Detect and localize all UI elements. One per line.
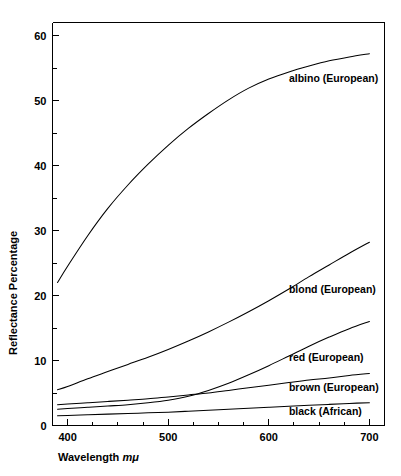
series-label-albino: albino (European) — [289, 72, 378, 84]
x-axis-tick-labels: 400500600700 — [58, 431, 378, 443]
x-axis-title: Wavelength mμ — [58, 451, 139, 463]
chart-canvas: 0102030405060 400500600700 albino (Europ… — [0, 0, 401, 476]
series-label-red: red (European) — [289, 351, 364, 363]
y-tick-label: 20 — [34, 290, 46, 302]
series-label-blond: blond (European) — [289, 283, 376, 295]
y-axis-ticks — [53, 36, 59, 426]
x-tick-label: 600 — [260, 431, 278, 443]
curve-red — [58, 322, 370, 410]
x-tick-label: 700 — [360, 431, 378, 443]
series-label-black: black (African) — [289, 405, 362, 417]
y-tick-label: 50 — [34, 95, 46, 107]
y-axis-title: Reflectance Percentage — [7, 231, 19, 355]
y-tick-label: 60 — [34, 30, 46, 42]
curve-blond — [58, 242, 370, 390]
x-tick-label: 500 — [159, 431, 177, 443]
x-tick-label: 400 — [58, 431, 76, 443]
y-tick-label: 40 — [34, 160, 46, 172]
y-tick-label: 10 — [34, 355, 46, 367]
curve-albino — [58, 54, 370, 283]
y-axis-tick-labels: 0102030405060 — [34, 30, 46, 432]
y-tick-label: 30 — [34, 225, 46, 237]
reflectance-chart-figure: 0102030405060 400500600700 albino (Europ… — [0, 0, 401, 476]
y-tick-label: 0 — [40, 420, 46, 432]
x-axis-ticks — [68, 419, 370, 426]
series-label-brown: brown (European) — [289, 381, 379, 393]
